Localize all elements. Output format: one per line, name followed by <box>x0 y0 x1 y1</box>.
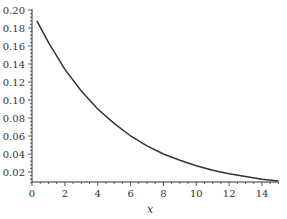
y-tick-label: 0.12 <box>3 77 25 88</box>
y-tick-label: 0.04 <box>3 149 25 160</box>
y-tick-label: 0.18 <box>3 23 25 34</box>
y-tick-label: 0.16 <box>3 41 25 52</box>
data-curve <box>37 21 279 181</box>
y-tick-label: 0.20 <box>3 5 25 16</box>
y-tick-label: 0.02 <box>3 167 25 178</box>
y-tick-label: 0.10 <box>3 95 25 106</box>
x-tick-label: 14 <box>256 188 269 199</box>
x-tick-label: 6 <box>127 188 133 199</box>
tick-labels: 0.020.040.060.080.100.120.140.160.180.20… <box>3 5 269 200</box>
y-tick-label: 0.06 <box>3 131 25 142</box>
line-chart: 0.020.040.060.080.100.120.140.160.180.20… <box>0 0 287 219</box>
x-tick-label: 0 <box>29 188 35 199</box>
y-tick-label: 0.08 <box>3 113 25 124</box>
x-axis-label: x <box>147 203 154 216</box>
x-tick-label: 4 <box>95 188 101 199</box>
axes <box>32 9 278 182</box>
x-tick-label: 12 <box>223 188 236 199</box>
y-tick-label: 0.14 <box>3 59 25 70</box>
x-tick-label: 8 <box>160 188 166 199</box>
x-tick-label: 2 <box>62 188 68 199</box>
x-tick-label: 10 <box>190 188 203 199</box>
axis-ticks <box>28 10 278 186</box>
